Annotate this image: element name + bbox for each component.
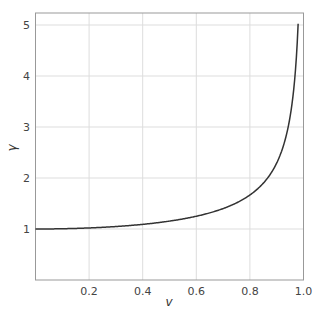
y-axis-label: γ — [5, 144, 19, 152]
x-tick-label: 0.4 — [134, 285, 152, 298]
gamma-curve — [36, 24, 299, 229]
y-tick-label: 2 — [23, 172, 30, 185]
y-tick-label: 4 — [23, 70, 30, 83]
y-tick-label: 3 — [23, 121, 30, 134]
y-tick-label: 1 — [23, 223, 30, 236]
x-tick-labels: 0.20.40.60.81.0 — [80, 285, 312, 298]
x-tick-label: 0.6 — [188, 285, 206, 298]
x-axis-label: v — [165, 295, 173, 309]
x-tick-label: 1.0 — [295, 285, 313, 298]
y-tick-label: 5 — [23, 19, 30, 32]
plot-frame — [36, 13, 304, 280]
x-tick-label: 0.2 — [80, 285, 98, 298]
x-tick-label: 0.8 — [241, 285, 259, 298]
grid-lines — [36, 13, 304, 280]
lorentz-factor-chart: 0.20.40.60.81.0 12345 v γ — [0, 0, 326, 320]
y-tick-labels: 12345 — [23, 19, 30, 236]
